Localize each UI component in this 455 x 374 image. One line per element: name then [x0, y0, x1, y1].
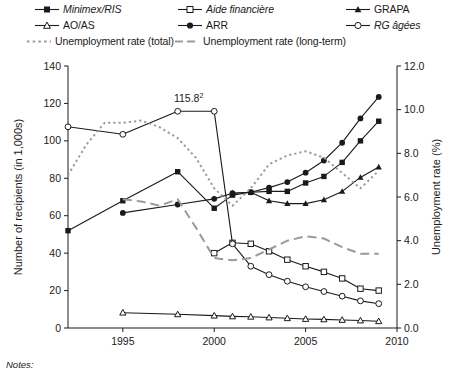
svg-text:6.0: 6.0 [404, 191, 419, 203]
data-point [339, 188, 345, 194]
data-point [358, 116, 364, 122]
data-point [211, 108, 217, 114]
svg-text:120: 120 [43, 97, 61, 109]
data-point [248, 241, 253, 246]
svg-text:10.0: 10.0 [404, 103, 425, 115]
data-point [284, 179, 290, 185]
data-point [303, 284, 309, 290]
data-point [376, 288, 381, 293]
series-aide-financi-re [212, 240, 382, 293]
series-arr [120, 94, 382, 216]
series-rg-g-es [65, 108, 382, 306]
svg-text:0.0: 0.0 [404, 322, 419, 334]
svg-text:8.0: 8.0 [404, 147, 419, 159]
data-point [285, 189, 290, 194]
data-point [321, 269, 326, 274]
data-point [303, 180, 308, 185]
data-point [357, 174, 363, 180]
chart-series-layer [65, 94, 382, 324]
data-point [230, 190, 236, 196]
svg-text:12.0: 12.0 [404, 60, 425, 72]
x-axis-ticks: 1995200020052010 [111, 328, 409, 347]
svg-text:2.0: 2.0 [404, 278, 419, 290]
data-point [211, 196, 217, 202]
svg-text:1995: 1995 [111, 335, 135, 347]
svg-text:2005: 2005 [294, 335, 318, 347]
data-point [376, 164, 382, 170]
svg-text:20: 20 [49, 284, 61, 296]
data-point [339, 140, 345, 146]
data-point [266, 272, 272, 278]
data-point [266, 185, 272, 191]
data-point [339, 160, 344, 165]
data-point [248, 263, 254, 269]
svg-text:0: 0 [55, 322, 61, 334]
data-point [230, 241, 236, 247]
value-annotation: 115.82 [174, 92, 204, 104]
series-unemployment-rate-long-term [123, 199, 379, 260]
data-point [120, 131, 126, 137]
data-point [339, 293, 345, 299]
svg-text:80: 80 [49, 172, 61, 184]
y-axis-left-title: Number of recipients (in 1,000s) [12, 119, 24, 276]
data-point [303, 264, 308, 269]
data-point [284, 278, 290, 284]
data-point [321, 174, 326, 179]
svg-text:140: 140 [43, 60, 61, 72]
data-point [120, 210, 126, 216]
data-point [358, 138, 363, 143]
chart-plot-area: 020406080100120140 0.02.04.06.08.010.012… [0, 0, 455, 356]
notes-label: Notes: [6, 359, 33, 370]
data-point [212, 206, 217, 211]
svg-text:4.0: 4.0 [404, 234, 419, 246]
chart-annotation-layer: 115.82 [174, 92, 204, 104]
svg-text:2000: 2000 [203, 335, 227, 347]
y-axis-left-ticks: 020406080100120140 [43, 60, 68, 334]
data-point [321, 289, 327, 295]
y-axis-right-ticks: 0.02.04.06.08.010.012.0 [397, 60, 425, 334]
data-point [175, 169, 180, 174]
data-point [65, 228, 70, 233]
chart-figure: Minimex/RIS AO/AS Unemployment rate (tot… [0, 0, 455, 374]
data-point [339, 276, 344, 281]
data-point [358, 298, 364, 304]
series-ao-as [120, 309, 382, 323]
data-point [266, 198, 272, 204]
data-point [303, 170, 309, 176]
data-point [175, 108, 181, 114]
y-axis-right-title: Unemployment rate (%) [430, 139, 442, 255]
data-point [65, 124, 71, 130]
svg-text:100: 100 [43, 134, 61, 146]
data-point [358, 286, 363, 291]
svg-text:40: 40 [49, 247, 61, 259]
svg-text:60: 60 [49, 209, 61, 221]
data-point [376, 94, 382, 100]
data-point [285, 257, 290, 262]
data-point [376, 119, 381, 124]
data-point [376, 301, 382, 307]
svg-text:2010: 2010 [385, 335, 409, 347]
